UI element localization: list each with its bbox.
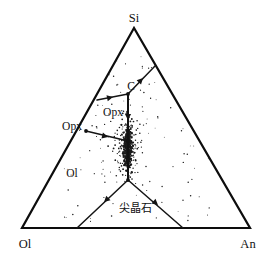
data-point <box>133 160 134 161</box>
data-point <box>123 152 124 153</box>
data-point <box>131 178 133 180</box>
figure-background <box>0 0 273 264</box>
data-point <box>119 127 121 129</box>
data-point <box>130 156 132 158</box>
data-point <box>134 144 136 146</box>
data-point <box>121 148 122 149</box>
vertex-label-si: Si <box>129 11 140 25</box>
data-point <box>155 128 156 129</box>
data-point <box>141 56 142 57</box>
data-point <box>183 162 184 163</box>
data-point <box>131 137 133 139</box>
data-point <box>110 121 111 122</box>
data-point <box>120 155 121 156</box>
data-point <box>104 176 105 177</box>
data-point <box>199 196 200 197</box>
data-point <box>91 125 92 126</box>
data-point <box>120 162 122 164</box>
data-point <box>132 151 133 152</box>
data-point <box>157 117 158 118</box>
data-point <box>130 159 131 160</box>
data-point <box>131 125 133 127</box>
data-point <box>181 130 182 131</box>
data-point <box>123 136 124 137</box>
data-point <box>118 162 119 163</box>
data-point <box>129 161 131 163</box>
data-point <box>142 184 143 185</box>
data-point <box>142 67 143 68</box>
data-point <box>207 214 208 215</box>
data-point <box>136 163 137 164</box>
data-point <box>125 170 127 172</box>
data-point <box>94 173 95 174</box>
data-point <box>135 159 136 160</box>
label-c: C <box>127 80 135 92</box>
data-point <box>80 157 81 158</box>
data-point <box>124 124 126 126</box>
data-point <box>122 174 124 176</box>
data-point <box>129 149 131 151</box>
label-spinel: 尖晶石 <box>119 202 152 215</box>
data-point <box>188 215 189 216</box>
data-point <box>100 148 101 149</box>
data-point <box>122 135 123 136</box>
data-point <box>122 126 123 127</box>
data-point <box>66 217 67 218</box>
data-point <box>130 173 131 174</box>
data-point <box>67 189 69 191</box>
data-point <box>119 142 121 144</box>
data-point <box>101 173 102 174</box>
data-point <box>114 140 115 141</box>
data-point <box>178 211 179 212</box>
data-point <box>130 151 132 153</box>
label-opx-edge: Opx <box>62 120 82 133</box>
data-point <box>124 164 126 166</box>
data-point <box>107 145 109 147</box>
data-point <box>123 147 124 148</box>
data-point <box>129 176 131 178</box>
data-point <box>129 147 131 149</box>
data-point <box>124 146 125 147</box>
data-point <box>143 92 144 93</box>
data-point <box>149 181 150 182</box>
data-point <box>118 152 119 153</box>
data-point <box>104 124 105 125</box>
node-opx-edge <box>84 129 88 133</box>
data-point <box>154 82 155 83</box>
data-point <box>131 160 133 162</box>
data-point <box>101 162 102 163</box>
data-point <box>156 217 157 218</box>
data-point <box>110 172 111 173</box>
data-point <box>150 98 151 99</box>
data-point <box>72 214 74 216</box>
label-opx-interior: Opx <box>103 106 123 119</box>
data-point <box>190 145 191 146</box>
data-point <box>146 190 147 191</box>
data-point <box>191 179 192 180</box>
data-point <box>134 172 135 173</box>
data-point <box>117 160 118 161</box>
vertex-label-ol: Ol <box>19 237 32 251</box>
data-point <box>187 153 188 154</box>
data-point <box>131 136 132 137</box>
data-point <box>90 218 91 219</box>
ternary-diagram: Si Ol An C Opx Opx Ol 尖晶石 <box>0 0 273 264</box>
data-point <box>125 129 127 131</box>
data-point <box>114 159 116 161</box>
data-point <box>125 150 127 152</box>
data-point <box>129 126 130 127</box>
data-point <box>117 130 119 132</box>
data-point <box>114 144 116 146</box>
data-point <box>124 155 126 157</box>
data-point <box>123 156 125 158</box>
data-point <box>113 147 115 149</box>
data-point <box>164 137 165 138</box>
data-point <box>135 165 136 166</box>
data-point <box>148 68 149 69</box>
data-point <box>118 148 120 150</box>
data-point <box>97 105 98 106</box>
data-point <box>143 124 144 125</box>
data-point <box>183 153 184 154</box>
data-point <box>124 142 125 143</box>
data-point <box>136 195 137 196</box>
